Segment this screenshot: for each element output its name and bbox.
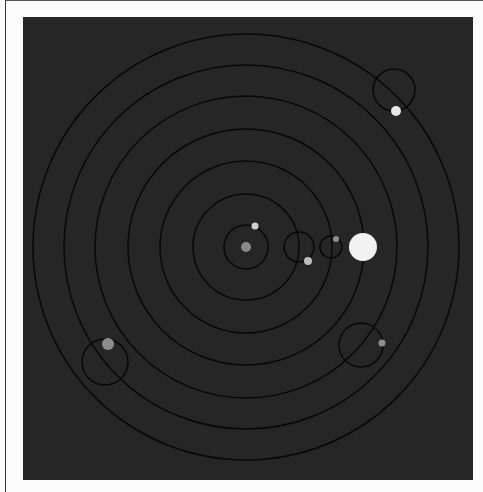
planet-3[interactable] <box>304 257 312 265</box>
planet-4[interactable] <box>333 236 339 242</box>
planet-5-moon-orbit <box>373 69 415 111</box>
planet-7[interactable] <box>379 340 386 347</box>
planet-6[interactable] <box>102 338 114 350</box>
sun[interactable] <box>349 233 377 261</box>
planet-1[interactable] <box>241 242 251 252</box>
planet-5[interactable] <box>391 106 401 116</box>
planet-2[interactable] <box>252 223 259 230</box>
solar-system-diagram <box>0 0 483 492</box>
